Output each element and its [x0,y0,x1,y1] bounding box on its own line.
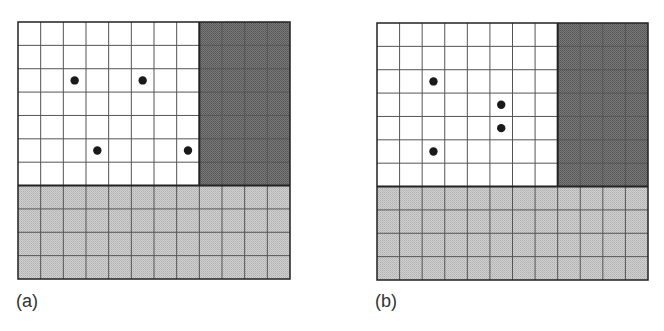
grid [376,22,649,281]
dot-marker [184,146,192,154]
dot-marker [429,77,437,85]
dot-marker [138,76,146,84]
grid [17,21,291,280]
dot-marker [429,147,437,155]
dot-marker [70,76,78,84]
dot-marker [93,146,101,154]
dot-marker [497,101,505,109]
dot-marker [497,124,505,132]
panel-b-label: (b) [375,291,397,312]
panel-a-label: (a) [16,291,38,312]
